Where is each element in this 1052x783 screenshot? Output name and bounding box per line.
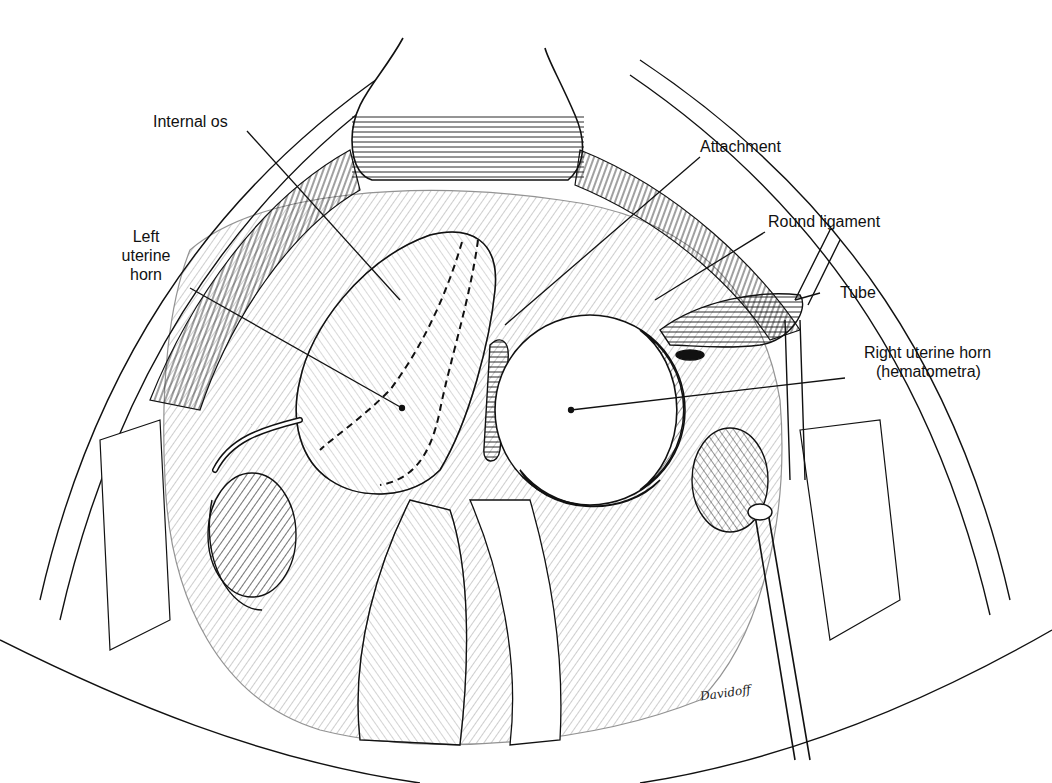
label-left-uterine-horn-line2: uterine [106,246,186,265]
label-left-uterine-horn-line3: horn [106,265,186,284]
label-hematometra: (hematometra) [876,362,981,381]
label-tube: Tube [840,283,876,302]
label-round-ligament: Round ligament [768,212,880,231]
label-left-uterine-horn: Left uterine horn [106,227,186,284]
label-right-uterine-horn: Right uterine horn [864,343,991,362]
right-uterine-horn-shape [495,315,685,507]
label-internal-os: Internal os [153,112,228,131]
label-left-uterine-horn-line1: Left [106,227,186,246]
label-attachment: Attachment [700,137,781,156]
upper-retractor [352,38,584,180]
illustration-canvas: Internal os Left uterine horn Attachment… [0,0,1052,783]
